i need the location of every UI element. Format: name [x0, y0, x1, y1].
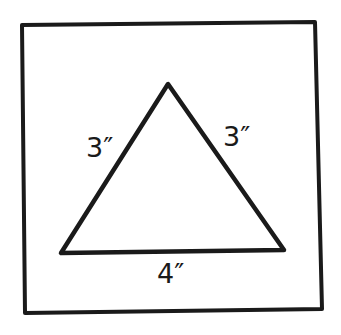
triangle-diagram: 3″ 3″ 4″	[0, 0, 341, 335]
left-side-label: 3″	[86, 132, 113, 163]
base-label: 4″	[157, 258, 184, 289]
triangle	[61, 84, 284, 253]
right-side-label: 3″	[223, 121, 250, 152]
